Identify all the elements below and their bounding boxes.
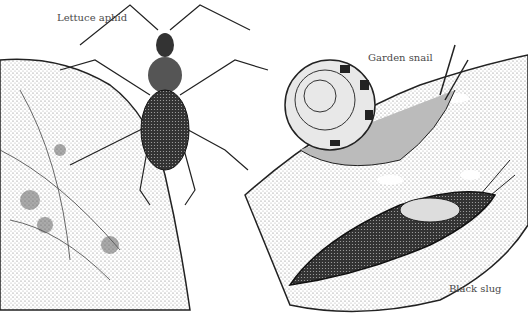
snail-label: Garden snail xyxy=(368,52,433,63)
illustration-drawing xyxy=(0,0,528,320)
aphid-label: Lettuce aphid xyxy=(57,12,127,23)
pest-illustration: Lettuce aphid Garden snail Black slug xyxy=(0,0,528,320)
slug-label: Black slug xyxy=(449,283,502,294)
